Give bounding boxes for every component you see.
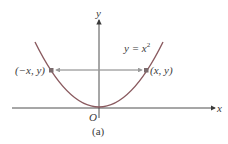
point-right [144,68,149,73]
point-left-label: (−x, y) [15,64,45,77]
point-right-label: (x, y) [150,64,173,77]
parabola-diagram: y x O y = x2 (−x, y) (x, y) (a) [0,0,228,144]
x-axis-label: x [216,102,222,114]
equation-label: y = x2 [123,41,151,54]
equation-exponent: 2 [147,41,151,49]
y-axis-label: y [95,7,101,19]
origin-label: O [89,111,97,123]
caption: (a) [92,125,105,138]
point-left [49,68,54,73]
